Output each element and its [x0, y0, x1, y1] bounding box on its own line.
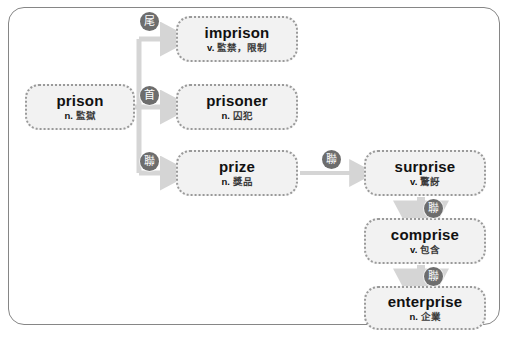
diagram-canvas: prison n. 監獄 imprison v. 監禁，限制 prisoner …	[0, 0, 512, 339]
badge-association-icon-2[interactable]: 聯	[322, 150, 341, 169]
node-comprise-gloss: v. 包含	[410, 245, 440, 255]
node-prisoner-gloss: n. 囚犯	[221, 111, 252, 121]
node-prisoner-meaning: 囚犯	[233, 110, 253, 121]
node-prize-word: prize	[219, 159, 255, 175]
node-comprise[interactable]: comprise v. 包含	[364, 218, 486, 264]
node-prize[interactable]: prize n. 獎品	[176, 150, 298, 196]
node-enterprise-meaning: 企業	[421, 311, 441, 322]
node-enterprise-pos: n.	[409, 311, 417, 322]
node-imprison-meaning: 監禁，限制	[217, 42, 267, 53]
node-prisoner-word: prisoner	[206, 93, 268, 109]
node-enterprise[interactable]: enterprise n. 企業	[364, 286, 486, 330]
node-surprise-word: surprise	[395, 159, 456, 175]
node-prisoner-pos: n.	[221, 110, 229, 121]
node-prison-meaning: 監獄	[76, 110, 96, 121]
node-prize-meaning: 獎品	[233, 176, 253, 187]
node-surprise-meaning: 驚訝	[420, 176, 440, 187]
badge-suffix-icon[interactable]: 尾	[140, 12, 159, 31]
node-surprise-pos: v.	[410, 176, 417, 187]
node-prisoner[interactable]: prisoner n. 囚犯	[176, 84, 298, 130]
node-prison-word: prison	[56, 93, 103, 109]
node-comprise-pos: v.	[410, 244, 417, 255]
badge-association-icon[interactable]: 聯	[140, 152, 159, 171]
node-comprise-meaning: 包含	[420, 244, 440, 255]
node-surprise-gloss: v. 驚訝	[410, 177, 440, 187]
node-imprison-word: imprison	[205, 25, 270, 41]
node-imprison-gloss: v. 監禁，限制	[207, 43, 267, 53]
node-surprise[interactable]: surprise v. 驚訝	[364, 150, 486, 196]
badge-prefix-icon[interactable]: 首	[140, 86, 159, 105]
node-enterprise-gloss: n. 企業	[409, 312, 440, 322]
node-prize-pos: n.	[221, 176, 229, 187]
node-prison[interactable]: prison n. 監獄	[25, 84, 135, 130]
node-comprise-word: comprise	[391, 227, 459, 243]
badge-association-icon-3[interactable]: 聯	[424, 199, 443, 218]
badge-association-icon-4[interactable]: 聯	[424, 267, 443, 286]
node-prize-gloss: n. 獎品	[221, 177, 252, 187]
node-enterprise-word: enterprise	[388, 294, 463, 310]
node-imprison[interactable]: imprison v. 監禁，限制	[176, 16, 298, 62]
node-prison-gloss: n. 監獄	[64, 111, 95, 121]
node-prison-pos: n.	[64, 110, 72, 121]
node-imprison-pos: v.	[207, 42, 214, 53]
